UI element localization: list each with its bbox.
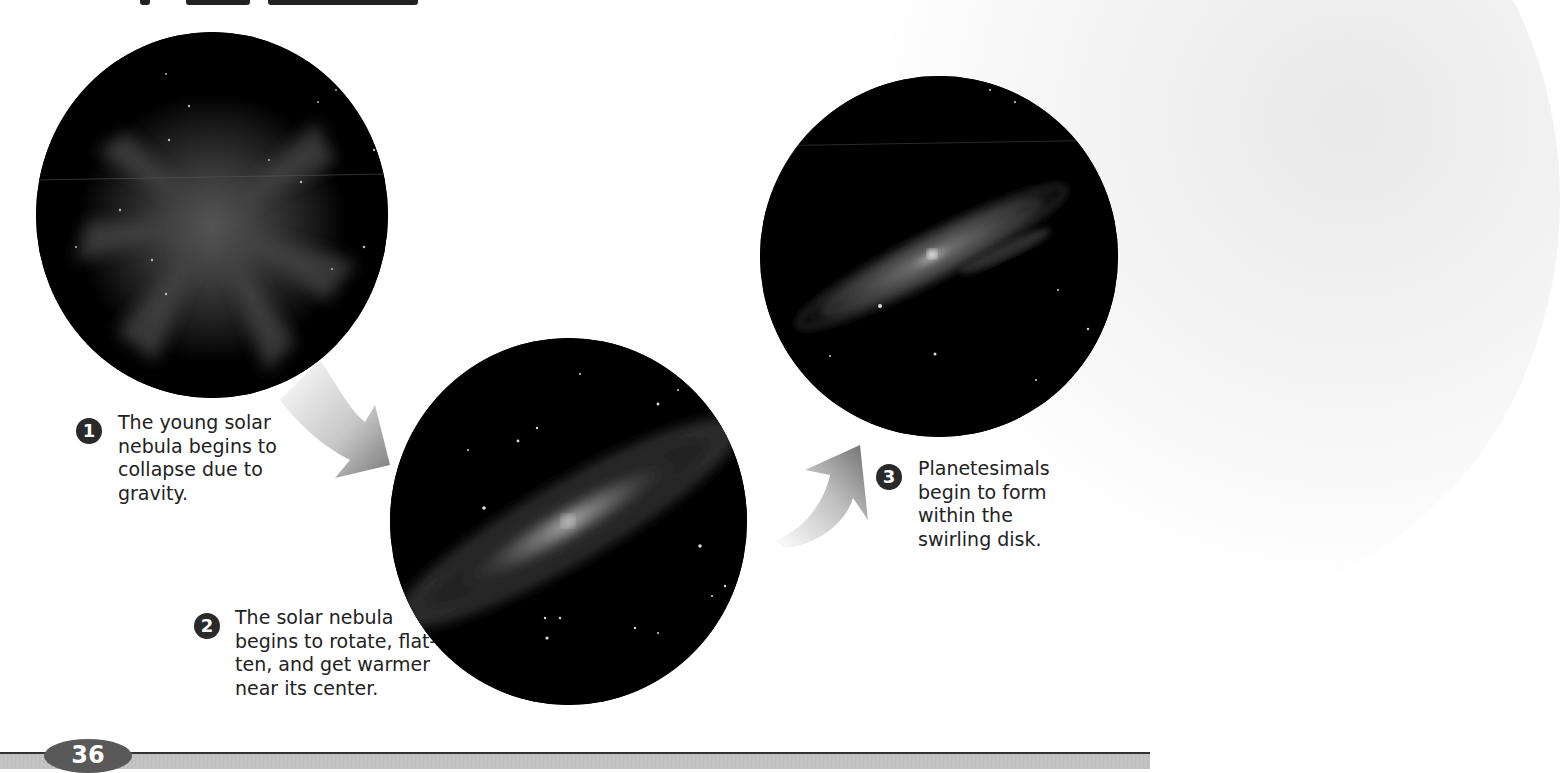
curved-arrow-up-right-icon: [775, 420, 875, 550]
step-1-line: collapse due to: [118, 458, 277, 482]
step-1-badge: 1: [76, 418, 102, 444]
step-3-line: within the: [918, 504, 1050, 528]
nebula-collapsing-image: [36, 32, 388, 398]
step-3-line: begin to form: [918, 481, 1050, 505]
step-2-line: The solar nebula: [235, 606, 436, 630]
step-1-line: gravity.: [118, 482, 277, 506]
step-2-caption: The solar nebula begins to rotate, flat-…: [235, 606, 436, 700]
step-3-line: swirling disk.: [918, 528, 1050, 552]
step-1-line: The young solar: [118, 411, 277, 435]
step-1-line: nebula begins to: [118, 435, 277, 459]
step-3-caption: Planetesimals begin to form within the s…: [918, 457, 1050, 551]
step-1-caption: The young solar nebula begins to collaps…: [118, 411, 277, 505]
step-3-line: Planetesimals: [918, 457, 1050, 481]
page-number: 36: [44, 739, 132, 773]
step-2-line: ten, and get warmer: [235, 653, 436, 677]
step-3-badge: 3: [876, 464, 902, 490]
step-2-line: near its center.: [235, 677, 436, 701]
planetesimal-disk-image: [760, 76, 1118, 437]
step-2-line: begins to rotate, flat-: [235, 630, 436, 654]
cropped-heading-fragment: [140, 0, 418, 5]
step-2-badge: 2: [194, 613, 220, 639]
curved-arrow-down-right-icon: [280, 360, 410, 490]
footer-bar: [0, 752, 1150, 769]
nebula-rotating-disk-image: [390, 338, 747, 705]
